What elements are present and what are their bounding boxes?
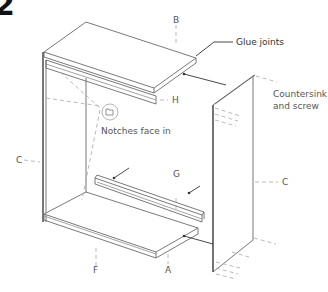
label-C-left: C <box>16 156 22 165</box>
label-G: G <box>173 170 180 179</box>
label-B: B <box>173 16 179 25</box>
countersink-note-line1: Countersink <box>273 90 327 99</box>
glue-joints-note: Glue joints <box>236 38 284 47</box>
label-F: F <box>93 266 98 275</box>
assembly-diagram: 2 <box>0 0 328 292</box>
label-H: H <box>172 96 179 105</box>
label-C-right: C <box>282 178 288 187</box>
countersink-note-line2: and screw <box>273 102 319 111</box>
notches-note: Notches face in <box>101 127 171 136</box>
label-A: A <box>165 266 171 275</box>
top-panel <box>44 22 196 93</box>
right-side-panel <box>213 75 255 272</box>
